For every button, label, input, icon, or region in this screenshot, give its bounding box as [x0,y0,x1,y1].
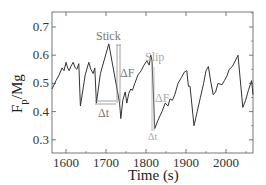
axis-ticks: 160017001800190020000.30.40.50.60.7 [33,12,253,170]
slip-delta-t-label: Δt [148,131,157,142]
x-tick-label: 1700 [93,155,119,170]
slip-delta-f-label: ΔF [155,91,170,105]
x-tick-label: 1600 [53,155,79,170]
y-tick-label: 0.3 [33,132,49,147]
y-tick-label: 0.4 [33,104,50,119]
x-tick-label: 2000 [213,155,239,170]
y-tick-label: 0.7 [33,19,50,34]
x-axis-title: Time (s) [128,167,179,184]
stick-delta-f-label: ΔF [120,66,135,80]
stick-delta-t-label: Δt [98,106,110,120]
stick-slip-chart: 160017001800190020000.30.40.50.60.7 Stic… [0,0,266,185]
y-tick-label: 0.5 [33,75,49,90]
stick-label: Stick [96,29,121,43]
y-axis-title: Fp/Mg [9,74,29,113]
svg-text:Fp/Mg: Fp/Mg [9,74,29,113]
slip-annotation: Slip ΔF Δt [145,50,170,142]
slip-label: Slip [145,50,164,64]
y-tick-label: 0.6 [33,47,50,62]
